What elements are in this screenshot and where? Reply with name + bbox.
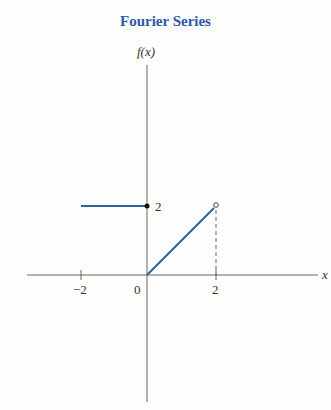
chart-plot: f(x) x −2 0 2 2 bbox=[0, 0, 331, 410]
open-endpoint bbox=[214, 203, 219, 208]
closed-endpoint bbox=[145, 204, 150, 209]
tick-label-0: 0 bbox=[134, 282, 141, 297]
ytick-label-2: 2 bbox=[155, 199, 162, 214]
series-segment-2 bbox=[147, 208, 214, 275]
y-axis-label: f(x) bbox=[137, 44, 155, 59]
x-axis-label: x bbox=[321, 267, 328, 282]
tick-label-2: 2 bbox=[212, 282, 219, 297]
tick-label-neg2: −2 bbox=[73, 282, 87, 297]
